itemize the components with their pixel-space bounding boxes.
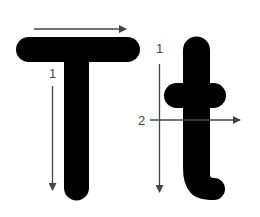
lowercase-t-stroke-2-label: 2: [138, 113, 145, 128]
uppercase-t-stem: [64, 55, 89, 201]
letter-formation-diagram: 1 1 2: [0, 0, 260, 217]
lowercase-t-glyph: [164, 37, 226, 201]
lowercase-t-stroke-1-label: 1: [156, 41, 163, 56]
uppercase-t-glyph: [16, 37, 140, 201]
lowercase-t-stem: [183, 37, 225, 201]
uppercase-t-stroke-1-label: 1: [49, 66, 56, 81]
lowercase-t-crossbar: [164, 83, 226, 108]
